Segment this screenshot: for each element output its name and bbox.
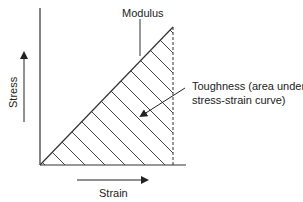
stress-strain-diagram: Modulus Toughness (area under stress-str… — [0, 0, 303, 202]
modulus-label: Modulus — [122, 7, 164, 19]
toughness-pointer-arrow — [141, 88, 185, 116]
strain-axis-label: Strain — [99, 187, 128, 199]
stress-axis-label: Stress — [7, 76, 19, 108]
toughness-label-line2: stress-strain curve) — [192, 94, 286, 106]
modulus-line — [40, 27, 173, 165]
toughness-label-line1: Toughness (area under — [192, 80, 303, 92]
